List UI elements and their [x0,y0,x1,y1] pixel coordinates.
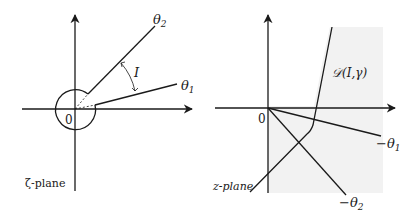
label-z-origin: 0 [258,112,266,126]
label-neg-theta2: −θ2 [339,195,364,212]
label-z-plane: z-plane [212,180,254,193]
label-angle-I: I [133,65,140,80]
label-theta1: θ1 [181,78,195,95]
label-theta2: θ2 [153,12,167,29]
ray-theta2 [88,26,155,94]
label-region-D: 𝒟(I,γ) [332,66,367,80]
z-plane-panel: 𝒟(I,γ) 0 −θ1 −θ2 z-plane [212,15,400,212]
label-neg-theta1: −θ1 [376,136,400,153]
label-z-plane-text: z-plane [212,180,254,193]
label-zeta-plane: ζ-plane [25,177,65,190]
conformal-map-diagram: θ2 θ1 I 0 ζ-plane 𝒟(I,γ) 0 −θ1 −θ2 z-pla… [0,0,418,216]
ray-theta1 [95,84,177,105]
label-zeta-origin: 0 [65,113,73,127]
zeta-dashed-upper [75,94,88,109]
angle-arc-arrow-top [121,62,125,67]
angle-arc-I [121,63,135,91]
zeta-plane-panel: θ2 θ1 I 0 ζ-plane [22,12,195,191]
